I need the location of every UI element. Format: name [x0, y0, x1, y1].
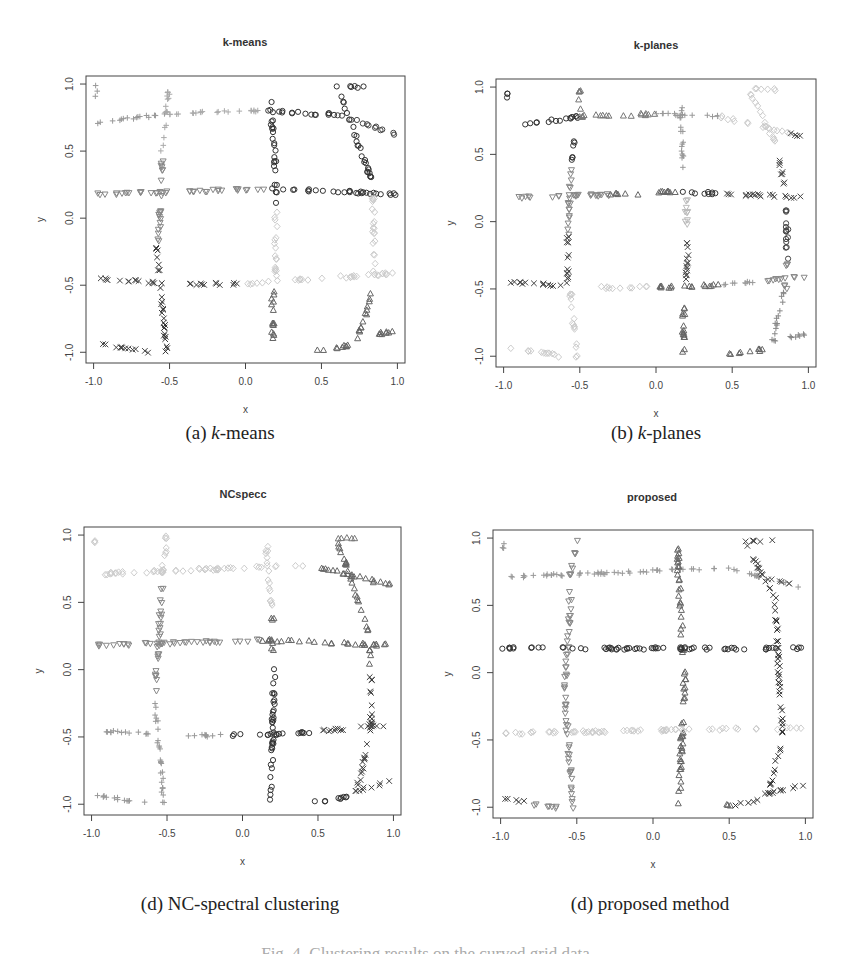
- scatter-plot: -1.0-1.0-0.5-0.50.00.00.50.51.01.0xy: [0, 0, 851, 954]
- svg-text:y: y: [442, 672, 453, 677]
- svg-text:0.0: 0.0: [471, 665, 482, 679]
- svg-text:-1.0: -1.0: [471, 798, 482, 816]
- svg-text:1.0: 1.0: [798, 831, 812, 842]
- svg-text:0.5: 0.5: [722, 831, 736, 842]
- figure-caption: Fig. 4. Clustering results on the curved…: [0, 934, 851, 954]
- svg-text:-0.5: -0.5: [471, 731, 482, 749]
- subcaption: (d) proposed method: [571, 893, 729, 915]
- scatter-points: [500, 537, 806, 811]
- svg-text:0.5: 0.5: [471, 598, 482, 612]
- svg-text:0.0: 0.0: [646, 831, 660, 842]
- svg-text:-1.0: -1.0: [492, 831, 510, 842]
- panel-proposed: proposed -1.0-1.0-0.5-0.50.00.00.50.51.0…: [0, 0, 851, 954]
- svg-text:-0.5: -0.5: [568, 831, 586, 842]
- svg-text:1.0: 1.0: [471, 531, 482, 545]
- svg-text:x: x: [651, 859, 656, 870]
